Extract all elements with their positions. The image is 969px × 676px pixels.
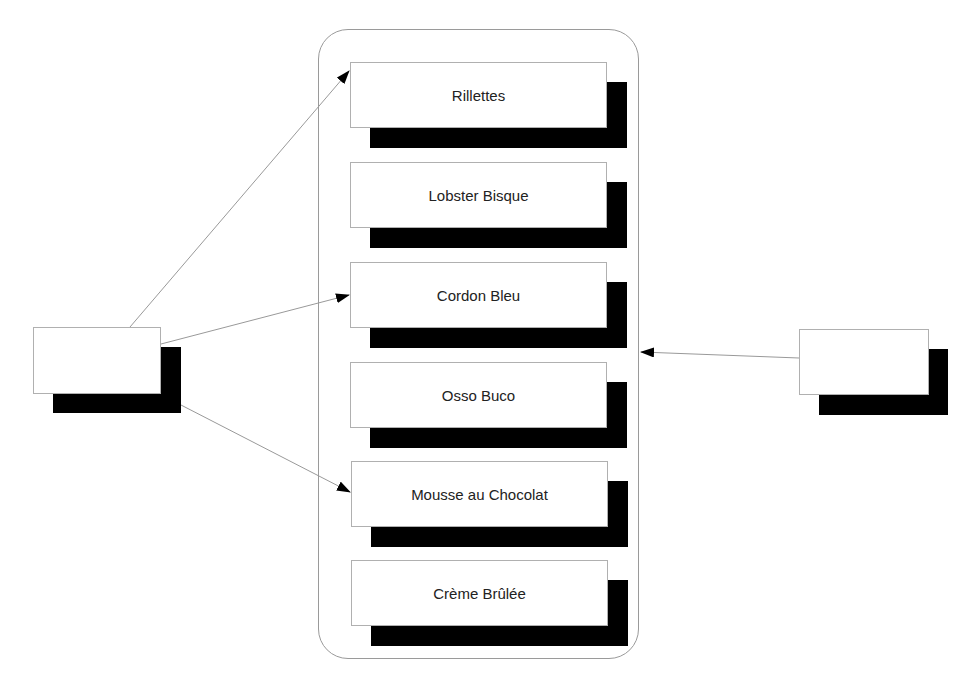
edge-left-to-rillettes [130, 71, 349, 327]
edge-left-to-cordon-bleu [161, 295, 349, 344]
edges-layer [0, 0, 969, 676]
edge-right-to-container [641, 352, 799, 358]
edge-left-to-mousse [181, 405, 350, 492]
